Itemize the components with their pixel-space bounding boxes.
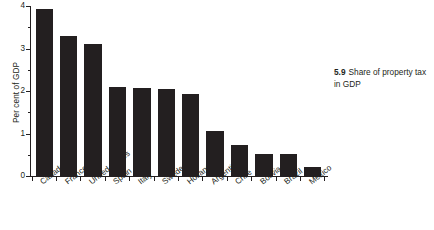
caption-text: Share of property tax in GDP: [334, 67, 426, 89]
x-axis-tick: [324, 177, 325, 181]
y-axis-minor-tick: [28, 112, 31, 113]
bar: [109, 87, 127, 176]
y-axis-tick-label: 4: [13, 2, 25, 10]
y-axis-tick-label: 3: [13, 45, 25, 53]
x-axis-tick: [178, 177, 179, 181]
bar: [182, 94, 200, 176]
bar: [60, 36, 78, 176]
x-axis-tick: [80, 177, 81, 181]
figure-share-of-property-tax-in-gdp: Per cent of GDP 01234CanadaFranceUnited …: [0, 0, 434, 230]
bar: [36, 9, 54, 176]
y-axis-tick-label: 0: [13, 172, 25, 180]
x-axis-tick: [154, 177, 155, 181]
bar: [133, 88, 151, 176]
y-axis-tick: [26, 91, 30, 92]
bar: [158, 89, 176, 176]
y-axis-minor-tick: [28, 70, 31, 71]
x-axis-tick: [276, 177, 277, 181]
x-axis-tick: [251, 177, 252, 181]
y-axis-tick: [26, 134, 30, 135]
x-axis-tick: [56, 177, 57, 181]
x-axis-tick: [202, 177, 203, 181]
y-axis-tick: [26, 6, 30, 7]
x-axis-tick: [129, 177, 130, 181]
x-axis-tick: [300, 177, 301, 181]
y-axis-tick-label: 2: [13, 87, 25, 95]
y-axis-tick: [26, 49, 30, 50]
y-axis-minor-tick: [28, 27, 31, 28]
y-axis-tick-label: 1: [13, 130, 25, 138]
caption-number: 5.9: [334, 67, 346, 77]
y-axis-tick: [26, 176, 30, 177]
bar: [84, 44, 102, 176]
x-axis-tick: [32, 177, 33, 181]
figure-caption: 5.9Share of property tax in GDP: [334, 67, 430, 90]
x-axis-tick: [227, 177, 228, 181]
y-axis-line: [30, 6, 31, 177]
y-axis-minor-tick: [28, 155, 31, 156]
plot-area: 01234CanadaFranceUnited StatesSpainItaly…: [30, 6, 328, 176]
x-axis-tick: [105, 177, 106, 181]
